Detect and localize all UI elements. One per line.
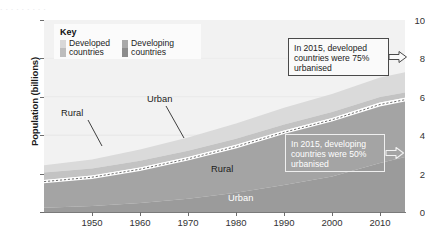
legend: Key Developed countries bbox=[54, 24, 201, 59]
x-tick-label-1960: 1960 bbox=[118, 217, 162, 228]
developed-callout-line3: urbanised bbox=[294, 63, 383, 73]
x-tick-mark-1980 bbox=[236, 212, 237, 216]
x-tick-mark-1990 bbox=[284, 212, 285, 216]
x-tick-label-1950: 1950 bbox=[70, 217, 114, 228]
developing-callout-line3: urbanised bbox=[291, 159, 379, 169]
right-arrow-outline-icon-developing bbox=[385, 146, 405, 160]
legend-swatch-developed bbox=[60, 40, 66, 57]
legend-label-developed-line2: countries bbox=[69, 47, 104, 57]
x-tick-mark-1970 bbox=[188, 212, 189, 216]
page-bleed-text: . . . . . . . . . bbox=[0, 0, 425, 14]
x-axis-line bbox=[44, 212, 406, 213]
series-label-urban-developing: Urban bbox=[228, 193, 253, 203]
right-arrow-outline-icon-developed bbox=[388, 50, 408, 64]
x-tick-mark-2010 bbox=[380, 212, 381, 216]
figure-population-urbanisation: . . . . . . . . . Population (billions) … bbox=[0, 0, 425, 240]
y-axis-title: Population (billions) bbox=[29, 37, 40, 167]
developing-callout-box: In 2015, developing countries were 50% u… bbox=[285, 134, 385, 172]
legend-label-developed: Developed countries bbox=[69, 39, 110, 58]
x-tick-mark-1960 bbox=[140, 212, 141, 216]
x-tick-label-2010: 2010 bbox=[358, 217, 402, 228]
legend-label-developing: Developing countries bbox=[131, 39, 174, 58]
developing-callout-line2: countries were 50% bbox=[291, 149, 379, 159]
series-label-urban-developed: Urban bbox=[147, 94, 172, 104]
x-tick-label-1990: 1990 bbox=[262, 217, 306, 228]
x-tick-mark-1950 bbox=[92, 212, 93, 216]
x-tick-mark-2000 bbox=[332, 212, 333, 216]
x-tick-label-1970: 1970 bbox=[166, 217, 210, 228]
x-tick-label-1980: 1980 bbox=[214, 217, 258, 228]
developing-callout-line1: In 2015, developing bbox=[291, 139, 379, 149]
legend-label-developing-line2: countries bbox=[131, 47, 166, 57]
legend-item-developed: Developed countries bbox=[60, 39, 110, 58]
series-label-rural-developed: Rural bbox=[61, 108, 83, 118]
developed-callout-box: In 2015, developed countries were 75% ur… bbox=[288, 38, 389, 76]
series-label-rural-developing: Rural bbox=[211, 164, 233, 174]
legend-title: Key bbox=[60, 27, 196, 37]
legend-swatch-developing bbox=[122, 40, 128, 57]
legend-item-developing: Developing countries bbox=[122, 39, 174, 58]
developed-callout-line2: countries were 75% bbox=[294, 53, 383, 63]
developing-callout: In 2015, developing countries were 50% u… bbox=[285, 134, 385, 172]
developed-callout-line1: In 2015, developed bbox=[294, 43, 383, 53]
developed-callout: In 2015, developed countries were 75% ur… bbox=[288, 38, 389, 76]
x-tick-label-2000: 2000 bbox=[310, 217, 354, 228]
